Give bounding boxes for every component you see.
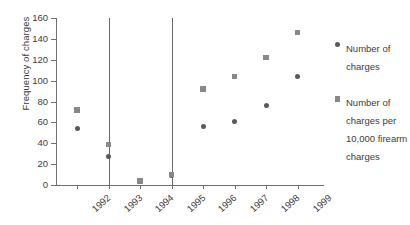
y-tick: 0: [51, 185, 56, 186]
y-tick-label: 80: [37, 96, 48, 107]
legend-label: Number of charges per 10,000 firearm cha…: [346, 97, 407, 162]
x-tick-label: 1994: [152, 192, 175, 214]
square-marker-icon: [335, 96, 341, 102]
legend-entry-charges-per-10000: Number of charges per 10,000 firearm cha…: [334, 92, 410, 164]
x-tick-label: 1999: [310, 192, 333, 214]
data-point: [295, 74, 300, 79]
x-tick-label: 1992: [89, 192, 112, 214]
y-tick-label: 60: [37, 116, 48, 127]
x-tick-label: 1995: [184, 192, 207, 214]
data-point: [106, 154, 111, 159]
chart-legend: Number of charges Number of charges per …: [334, 38, 410, 182]
data-point: [295, 30, 301, 36]
x-tick: [77, 185, 78, 189]
x-tick: [203, 185, 204, 189]
y-tick: 40: [51, 143, 56, 144]
y-tick: 140: [51, 39, 56, 40]
legend-entry-number-of-charges: Number of charges: [334, 38, 410, 74]
y-axis-line: [56, 18, 57, 186]
reference-line-1993: [109, 18, 110, 185]
plot-area: 020406080100120140160 199219931994199519…: [56, 18, 308, 186]
data-point: [264, 103, 269, 108]
y-tick-label: 140: [32, 33, 48, 44]
x-axis-line: [56, 185, 324, 186]
x-tick: [235, 185, 236, 189]
y-tick-label: 20: [37, 158, 48, 169]
data-point: [201, 124, 206, 129]
x-tick-label: 1993: [121, 192, 144, 214]
data-point: [137, 178, 143, 184]
legend-label: Number of charges: [346, 43, 390, 72]
y-tick: 80: [51, 102, 56, 103]
y-tick-label: 40: [37, 137, 48, 148]
x-tick: [140, 185, 141, 189]
x-tick: [109, 185, 110, 189]
data-point: [200, 86, 206, 92]
y-tick: 100: [51, 81, 56, 82]
y-tick: 120: [51, 60, 56, 61]
x-tick-label: 1996: [215, 192, 238, 214]
data-point: [106, 142, 112, 148]
x-tick: [266, 185, 267, 189]
data-point: [232, 119, 237, 124]
x-tick: [298, 185, 299, 189]
data-point: [263, 55, 269, 61]
x-tick: [172, 185, 173, 189]
scatter-chart: Frequency of charges 0204060801001201401…: [0, 0, 410, 225]
data-point: [232, 74, 238, 80]
x-tick-label: 1997: [247, 192, 270, 214]
y-tick-label: 0: [43, 179, 48, 190]
y-axis-title: Frequency of charges: [20, 0, 31, 134]
y-tick: 60: [51, 122, 56, 123]
y-tick: 20: [51, 164, 56, 165]
y-tick: 160: [51, 18, 56, 19]
data-point: [74, 107, 80, 113]
circle-marker-icon: [335, 42, 340, 47]
y-tick-label: 160: [32, 12, 48, 23]
data-point: [169, 172, 175, 178]
reference-line-1995: [172, 18, 173, 185]
x-tick-label: 1998: [278, 192, 301, 214]
y-tick-label: 100: [32, 75, 48, 86]
y-tick-label: 120: [32, 54, 48, 65]
data-point: [75, 126, 80, 131]
